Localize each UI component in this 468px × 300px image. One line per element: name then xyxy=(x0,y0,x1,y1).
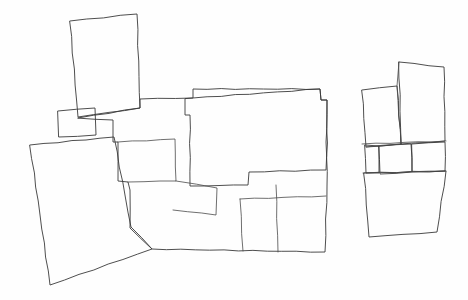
lower-left-light-parcel xyxy=(30,137,152,285)
figure-root xyxy=(0,0,468,300)
division-line-bottom-right-vertical-a xyxy=(240,199,243,251)
right-light-lower-parcel xyxy=(364,171,446,237)
right-small-dark-square xyxy=(379,144,412,174)
main-light-body xyxy=(78,89,327,253)
internal-line-layer xyxy=(118,62,446,252)
central-dark-block xyxy=(185,89,327,186)
right-light-mid-left-parcel xyxy=(365,145,379,173)
division-line-bottom-right-vertical-b xyxy=(276,185,278,252)
division-line-bottom-right-upper xyxy=(240,196,326,199)
small-dark-box-left xyxy=(58,108,96,137)
parcel-plan-drawing xyxy=(0,0,468,300)
division-line-mid-vertical-left xyxy=(118,139,176,182)
top-left-dark-block xyxy=(70,14,140,117)
right-light-upper-left-parcel xyxy=(362,86,401,147)
right-light-upper-right-parcel xyxy=(399,62,445,144)
shape-layer xyxy=(30,14,446,285)
right-light-mid-right-parcel xyxy=(412,142,445,172)
